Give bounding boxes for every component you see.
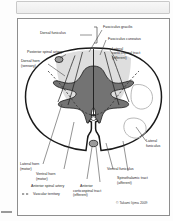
central-canal [91,117,96,121]
label-ventral-horn-line2: (motor) [36,177,48,181]
anterior-spinal-artery-dot [89,140,97,146]
copyright-notice: © Takami Iijima 2009 [116,201,147,205]
posterior-spinal-artery-dot [55,57,63,63]
label-dorsal-horn-line2: (sensory) [21,64,36,68]
label-fasciculus-cuneatus: Fasciculus cuneatus [108,37,141,41]
bottom-left-dash [1,211,12,213]
top-cropped-bar [16,1,170,14]
spinal-cord-cross-section-figure: Dorsal funiculus Fasciculus gracilis Fas… [17,18,170,216]
label-anterior-corticospinal-tract-line3: (efferent) [73,193,88,197]
leader-anterior-spinal-artery [87,147,92,179]
label-spinothalamic-tract-line2: (afferent) [117,181,132,185]
label-anterior-spinal-artery: Anterior spinal artery [31,184,64,188]
label-lateral-funiculus-line2: funiculus [146,144,160,148]
label-ventral-funiculus: Ventral funiculus [107,167,134,171]
label-fasciculus-gracilis: Fasciculus gracilis [103,25,132,29]
screenshot-root: Dorsal funiculus Fasciculus gracilis Fas… [0,0,173,221]
leader-anterior-corticospinal [96,147,100,182]
label-dorsal-funiculus: Dorsal funiculus [40,31,66,35]
legend-vascular-territory-label: Vascular territory [33,192,60,196]
label-lateral-horn-line2: (motor) [20,167,32,171]
label-lateral-corticospinal-tract-line3: (efferent) [112,56,127,60]
label-posterior-spinal-artery: Posterior spinal artery [27,50,62,54]
